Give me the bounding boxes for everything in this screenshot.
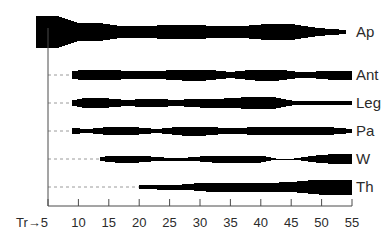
series-label-th: Th	[356, 179, 374, 194]
series-label-leg: Leg	[356, 95, 381, 110]
series-label-ant: Ant	[356, 67, 379, 82]
series-bands	[36, 16, 352, 195]
series-band-ant	[72, 70, 352, 81]
series-band-w	[100, 154, 352, 164]
x-axis-tick-label: Tr→5	[16, 216, 60, 229]
x-axis-tick-label: 20	[125, 216, 153, 229]
series-band-pa	[72, 127, 352, 136]
series-band-ap	[36, 16, 346, 48]
series-band-th	[139, 180, 352, 195]
x-axis-tick-label: 35	[216, 216, 244, 229]
series-label-pa: Pa	[356, 123, 374, 138]
x-axis-tick-label: 40	[247, 216, 275, 229]
x-axis-tick-label: 25	[156, 216, 184, 229]
x-axis-tick-label: 55	[338, 216, 366, 229]
x-axis	[48, 28, 352, 206]
series-band-leg	[72, 97, 352, 109]
x-axis-tick-label: 15	[95, 216, 123, 229]
x-axis-tick-label: 10	[64, 216, 92, 229]
x-axis-tick-label: 30	[186, 216, 214, 229]
x-axis-tick-label: 50	[308, 216, 336, 229]
x-axis-tick-label: 45	[277, 216, 305, 229]
series-label-ap: Ap	[356, 24, 374, 39]
series-label-w: W	[356, 151, 370, 166]
